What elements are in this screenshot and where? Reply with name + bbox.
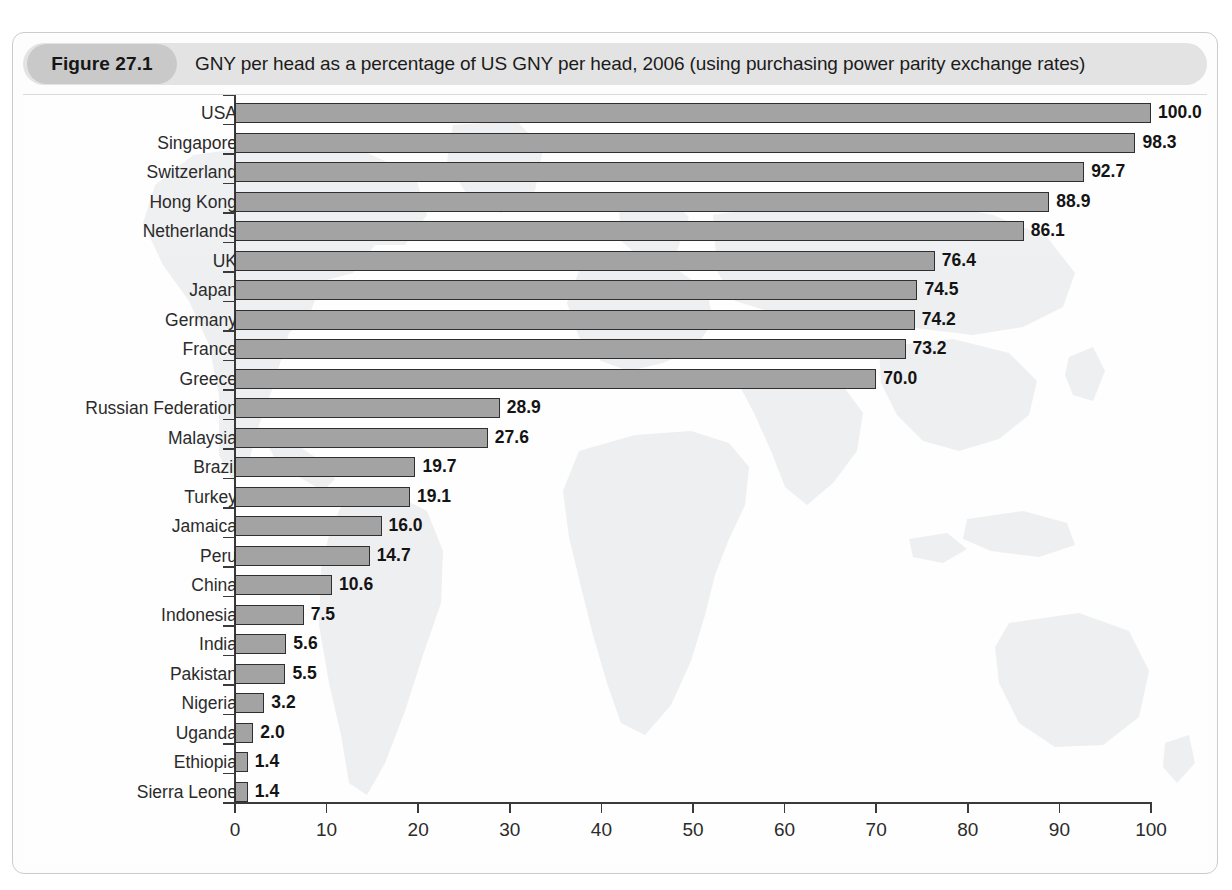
y-tick (223, 360, 234, 362)
x-tick-label: 100 (1121, 819, 1181, 841)
bar-row: Pakistan5.5 (23, 660, 1207, 690)
bar-row: Germany74.2 (23, 306, 1207, 336)
category-label: Pakistan (23, 664, 237, 685)
x-tick-label: 0 (205, 819, 265, 841)
y-tick (223, 212, 234, 214)
bar (235, 457, 415, 477)
bar-row: Jamaica16.0 (23, 512, 1207, 542)
plot-area: USA100.0Singapore98.3Switzerland92.7Hong… (23, 95, 1207, 865)
bar (235, 339, 906, 359)
figure-frame: Figure 27.1 GNY per head as a percentage… (12, 32, 1218, 874)
category-label: Singapore (23, 133, 237, 154)
category-label: Nigeria (23, 693, 237, 714)
bar-value-label: 16.0 (389, 515, 423, 536)
bar-value-label: 88.9 (1056, 191, 1090, 212)
category-label: USA (23, 103, 237, 124)
bar-row: Hong Kong88.9 (23, 188, 1207, 218)
bar (235, 752, 248, 772)
y-tick (223, 124, 234, 126)
bar (235, 310, 915, 330)
figure-header: Figure 27.1 GNY per head as a percentage… (23, 43, 1207, 85)
bar-value-label: 74.2 (922, 309, 956, 330)
x-tick (692, 802, 694, 813)
x-tick-label: 90 (1029, 819, 1089, 841)
bar (235, 133, 1135, 153)
x-tick (784, 802, 786, 813)
bar-value-label: 1.4 (255, 781, 279, 802)
y-tick (223, 507, 234, 509)
y-tick (223, 596, 234, 598)
bar (235, 280, 917, 300)
y-tick (223, 183, 234, 185)
bar-value-label: 5.5 (292, 663, 316, 684)
y-tick (223, 301, 234, 303)
bar (235, 664, 285, 684)
bar (235, 546, 370, 566)
bar (235, 162, 1084, 182)
bar (235, 221, 1024, 241)
bar (235, 782, 248, 802)
bar (235, 516, 382, 536)
bar (235, 723, 253, 743)
y-tick (223, 389, 234, 391)
x-tick-label: 20 (388, 819, 448, 841)
y-tick (223, 478, 234, 480)
bar-value-label: 27.6 (495, 427, 529, 448)
x-tick-label: 40 (571, 819, 631, 841)
bar-value-label: 14.7 (377, 545, 411, 566)
x-tick-label: 50 (663, 819, 723, 841)
category-label: Peru (23, 546, 237, 567)
bar-value-label: 2.0 (260, 722, 284, 743)
x-tick (967, 802, 969, 813)
bar-row: Uganda2.0 (23, 719, 1207, 749)
bar (235, 693, 264, 713)
bar-value-label: 70.0 (883, 368, 917, 389)
category-label: India (23, 634, 237, 655)
x-tick (326, 802, 328, 813)
bar-row: Indonesia7.5 (23, 601, 1207, 631)
category-label: Greece (23, 369, 237, 390)
bar (235, 192, 1049, 212)
bar (235, 398, 500, 418)
bar-row: China10.6 (23, 571, 1207, 601)
bar-value-label: 3.2 (271, 692, 295, 713)
x-tick (875, 802, 877, 813)
y-tick (223, 714, 234, 716)
y-tick (223, 566, 234, 568)
x-tick-label: 70 (846, 819, 906, 841)
bar (235, 428, 488, 448)
y-tick (223, 419, 234, 421)
bar-value-label: 98.3 (1142, 132, 1176, 153)
y-tick (223, 684, 234, 686)
category-label: Germany (23, 310, 237, 331)
category-label: Turkey (23, 487, 237, 508)
bar-value-label: 76.4 (942, 250, 976, 271)
figure-number-badge: Figure 27.1 (27, 44, 177, 84)
y-tick (223, 802, 234, 804)
bar-row: Switzerland92.7 (23, 158, 1207, 188)
bar-row: Ethiopia1.4 (23, 748, 1207, 778)
bar (235, 103, 1151, 123)
bar-value-label: 73.2 (913, 338, 947, 359)
bar-row: Russian Federation28.9 (23, 394, 1207, 424)
y-tick (223, 448, 234, 450)
category-label: Indonesia (23, 605, 237, 626)
bar-value-label: 28.9 (507, 397, 541, 418)
category-label: Sierra Leone (23, 782, 237, 803)
bar-row: UK76.4 (23, 247, 1207, 277)
bar-row: India5.6 (23, 630, 1207, 660)
bar-row: Netherlands86.1 (23, 217, 1207, 247)
y-tick (223, 773, 234, 775)
y-tick (223, 242, 234, 244)
y-tick (223, 153, 234, 155)
category-label: Malaysia (23, 428, 237, 449)
category-label: China (23, 575, 237, 596)
category-label: UK (23, 251, 237, 272)
bar (235, 575, 332, 595)
bar-row: Brazil19.7 (23, 453, 1207, 483)
x-tick (417, 802, 419, 813)
category-label: Brazil (23, 457, 237, 478)
bar-value-label: 86.1 (1031, 220, 1065, 241)
bar-row: USA100.0 (23, 99, 1207, 129)
bar-row: Greece70.0 (23, 365, 1207, 395)
